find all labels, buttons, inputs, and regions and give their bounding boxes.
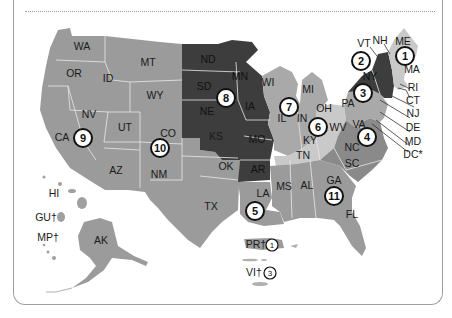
label-wi: WI: [262, 76, 275, 88]
label-ks: KS: [209, 130, 223, 142]
northern-mariana-islands: [43, 244, 56, 260]
label-mo: MO: [249, 133, 266, 145]
label-pa: PA: [341, 97, 354, 109]
label-ga: GA: [326, 174, 341, 186]
label-nj: NJ: [407, 107, 420, 119]
label-or: OR: [66, 67, 82, 79]
label-ms: MS: [276, 180, 292, 192]
label-ny: NY: [363, 70, 378, 82]
alaska: [72, 218, 148, 288]
label-id: ID: [103, 72, 114, 84]
guam: [57, 212, 65, 222]
svg-text:4: 4: [364, 131, 371, 143]
svg-text:3: 3: [360, 87, 366, 99]
circuit-11-marker[interactable]: 11: [325, 187, 343, 205]
label-wa: WA: [74, 40, 91, 52]
label-sc: SC: [345, 157, 360, 169]
svg-text:9: 9: [80, 132, 86, 144]
circuit-2-marker[interactable]: 2: [352, 52, 370, 70]
svg-text:8: 8: [223, 92, 229, 104]
label-md: MD: [405, 135, 422, 147]
label-ok: OK: [218, 160, 233, 172]
circuit-10-marker[interactable]: 10: [151, 139, 169, 157]
circuit-1-marker[interactable]: 1: [396, 47, 414, 65]
pr-islets: [290, 244, 298, 248]
svg-text:5: 5: [252, 205, 258, 217]
circuit-4-marker[interactable]: 4: [358, 128, 376, 146]
label-ca: CA: [55, 131, 70, 143]
aleutians: [46, 288, 72, 292]
label-sd: SD: [197, 80, 212, 92]
svg-text:2: 2: [358, 55, 364, 67]
label-dc: DC*: [403, 148, 422, 160]
svg-text:11: 11: [328, 190, 340, 202]
label-ct: CT: [406, 94, 421, 106]
label-ar: AR: [251, 163, 266, 175]
label-in: IN: [297, 112, 308, 124]
label-gu: GU†: [35, 211, 57, 223]
label-mn: MN: [232, 70, 248, 82]
circuit-5-marker[interactable]: 5: [246, 202, 264, 220]
label-nv: NV: [82, 108, 97, 120]
svg-text:7: 7: [286, 101, 292, 113]
label-tx: TX: [204, 200, 217, 212]
svg-text:3: 3: [268, 269, 273, 278]
circuit-pr-marker[interactable]: 1: [266, 239, 278, 251]
circuit-3-marker[interactable]: 3: [354, 84, 372, 102]
svg-text:1: 1: [270, 241, 275, 250]
label-tn: TN: [296, 149, 310, 161]
label-al: AL: [301, 179, 314, 191]
circuit-7-marker[interactable]: 7: [280, 98, 298, 116]
svg-text:10: 10: [154, 142, 166, 154]
circuit-vi-marker[interactable]: 3: [264, 267, 276, 279]
label-vi: VI†: [246, 266, 262, 278]
label-nm: NM: [151, 168, 167, 180]
label-hi: HI: [49, 187, 60, 199]
label-oh: OH: [316, 102, 332, 114]
label-nc: NC: [344, 141, 360, 153]
label-pr: PR†: [246, 238, 267, 250]
label-wv: WV: [330, 121, 347, 133]
label-ut: UT: [118, 121, 133, 133]
us-circuit-map: WA OR ID MT WY NV CA UT CO AZ NM KS OK T…: [0, 0, 452, 318]
label-ne: NE: [200, 105, 215, 117]
label-mp: MP†: [37, 231, 59, 243]
svg-text:6: 6: [315, 121, 321, 133]
circuit-8-marker[interactable]: 8: [217, 89, 235, 107]
label-de: DE: [406, 121, 421, 133]
label-ia: IA: [245, 100, 255, 112]
label-nd: ND: [200, 53, 216, 65]
label-mt: MT: [140, 56, 156, 68]
label-ak: AK: [94, 234, 108, 246]
circuit-9-marker[interactable]: 9: [74, 129, 92, 147]
svg-text:1: 1: [402, 50, 408, 62]
label-vt: VT: [357, 37, 371, 49]
label-co: CO: [160, 127, 176, 139]
label-az: AZ: [109, 164, 123, 176]
label-la: LA: [257, 187, 270, 199]
label-me: ME: [395, 35, 411, 47]
label-ri: RI: [408, 81, 419, 93]
label-mi: MI: [302, 83, 314, 95]
circuit-6-marker[interactable]: 6: [309, 118, 327, 136]
label-fl: FL: [346, 208, 358, 220]
label-nh: NH: [372, 34, 387, 46]
label-wy: WY: [147, 89, 164, 101]
